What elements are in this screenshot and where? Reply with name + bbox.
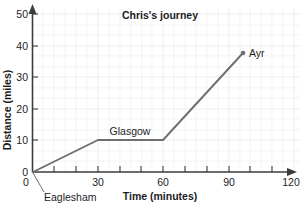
annotation-eaglesham: Eaglesham — [44, 191, 97, 203]
y-axis-arrow-icon — [29, 4, 37, 14]
x-axis — [33, 166, 298, 176]
chart-container: 0 10 20 30 40 50 0 30 60 90 120 Time (mi… — [0, 0, 305, 208]
y-tick-label-30: 30 — [16, 71, 28, 83]
y-tick-label-20: 20 — [16, 103, 28, 115]
y-tick-label-10: 10 — [16, 134, 28, 146]
y-axis-title: Distance (miles) — [1, 70, 13, 151]
ayr-data-point — [241, 51, 246, 56]
distance-time-chart: 0 10 20 30 40 50 0 30 60 90 120 Time (mi… — [0, 0, 305, 208]
eaglesham-leader-line — [33, 173, 44, 192]
chart-title: Chris's journey — [122, 9, 198, 21]
y-tick-label-50: 50 — [16, 8, 28, 20]
x-tick-label-0: 0 — [23, 176, 29, 188]
annotation-glasgow: Glasgow — [110, 125, 151, 137]
y-tick-label-40: 40 — [16, 40, 28, 52]
x-tick-label-30: 30 — [92, 176, 104, 188]
x-tick-label-90: 90 — [223, 176, 235, 188]
x-tick-label-120: 120 — [282, 176, 300, 188]
grid-lines — [33, 8, 300, 172]
annotation-ayr: Ayr — [249, 47, 265, 59]
x-tick-label-60: 60 — [157, 176, 169, 188]
x-axis-title: Time (minutes) — [123, 190, 197, 202]
x-axis-arrow-icon — [287, 168, 297, 176]
